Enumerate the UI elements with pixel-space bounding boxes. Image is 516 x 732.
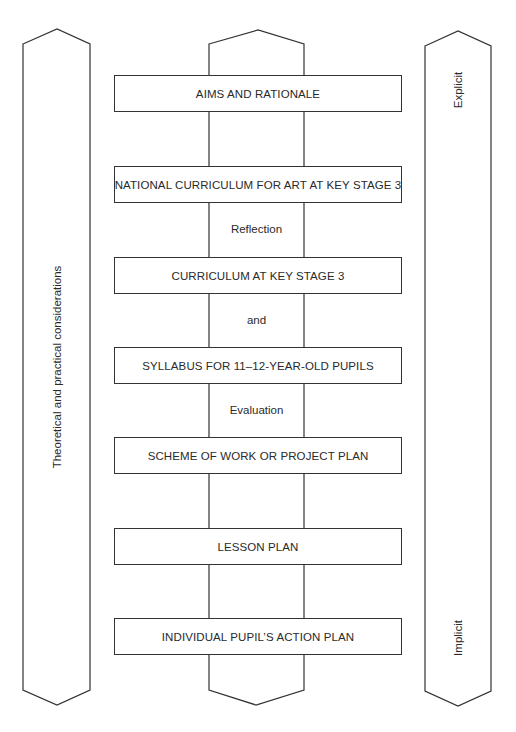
individual-action-plan-box: INDIVIDUAL PUPIL’S ACTION PLAN (114, 618, 402, 655)
right-column-arrow (425, 31, 491, 706)
scheme-of-work-box: SCHEME OF WORK OR PROJECT PLAN (114, 437, 402, 474)
aims-and-rationale-box: AIMS AND RATIONALE (114, 75, 402, 112)
and-label: and (209, 314, 304, 326)
implicit-label: Implicit (452, 620, 464, 656)
explicit-label: Explicit (452, 72, 464, 108)
syllabus-box: SYLLABUS FOR 11–12-YEAR-OLD PUPILS (114, 347, 402, 384)
evaluation-label: Evaluation (209, 404, 304, 416)
left-column-label: Theoretical and practical considerations (51, 266, 63, 469)
national-curriculum-box: NATIONAL CURRICULUM FOR ART AT KEY STAGE… (114, 166, 402, 203)
reflection-label: Reflection (209, 223, 304, 235)
lesson-plan-box: LESSON PLAN (114, 528, 402, 565)
curriculum-ks3-box: CURRICULUM AT KEY STAGE 3 (114, 257, 402, 294)
